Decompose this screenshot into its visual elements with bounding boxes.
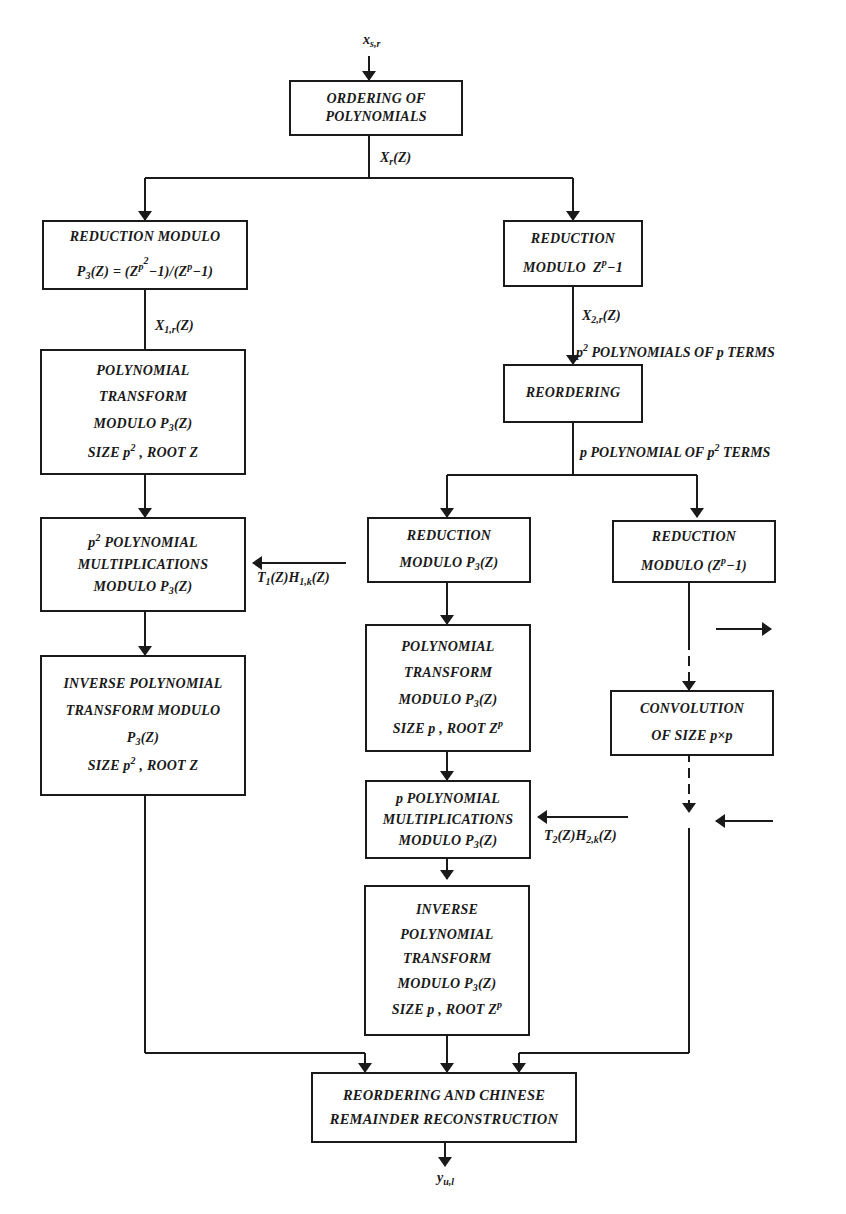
edge-label-t2h2: T2(Z)H2,k(Z)	[544, 828, 617, 845]
box-reduction-modulo-zp-1: REDUCTION MODULO (Zp−1)	[612, 520, 776, 583]
p3-definition: P3(Z) = (Zp2−1)/(Zp−1)	[77, 251, 213, 286]
edge-label-x2r: X2,r(Z)	[582, 308, 621, 325]
box-ordering-of-polynomials: ORDERING OF POLYNOMIALS	[289, 80, 463, 136]
box-p-polynomial-multiplications: p POLYNOMIAL MULTIPLICATIONS MODULO P3(Z…	[365, 780, 531, 859]
edge-label-p2-polys: p2 POLYNOMIALS OF p TERMS	[576, 342, 775, 361]
box-reduction-modulo-p3: REDUCTION MODULO P3(Z) = (Zp2−1)/(Zp−1)	[42, 220, 248, 290]
edge-label-x1r: X1,r(Z)	[155, 318, 194, 335]
box-reordering: REORDERING	[503, 364, 643, 423]
flowchart: xs,r yu,l Xr(Z) X1,r(Z) X2,r(Z) p2 POLYN…	[0, 0, 846, 1214]
box-p2-polynomial-multiplications: p2 POLYNOMIAL MULTIPLICATIONS MODULO P3(…	[40, 517, 246, 612]
input-label: xs,r	[363, 32, 380, 49]
box-polynomial-transform-2: POLYNOMIAL TRANSFORM MODULO P3(Z) SIZE p…	[365, 624, 531, 752]
box-inverse-polynomial-transform-2: INVERSE POLYNOMIAL TRANSFORM MODULO P3(Z…	[364, 885, 530, 1036]
edge-label-t1h1: T1(Z)H1,k(Z)	[257, 570, 330, 587]
edge-label-p-polys: p POLYNOMIAL OF p2 TERMS	[580, 442, 770, 461]
box-reduction-modulo-p3-b: REDUCTION MODULO P3(Z)	[367, 517, 531, 583]
box-convolution: CONVOLUTION OF SIZE p×p	[610, 690, 774, 756]
edge-label-xr: Xr(Z)	[380, 150, 411, 167]
output-label: yu,l	[437, 1170, 454, 1187]
box-reordering-and-crt: REORDERING AND CHINESE REMAINDER RECONST…	[311, 1072, 577, 1143]
box-reduction-modulo-zp: REDUCTION MODULO Zp−1	[503, 220, 643, 287]
box-inverse-polynomial-transform-1: INVERSE POLYNOMIAL TRANSFORM MODULO P3(Z…	[40, 655, 246, 796]
box-polynomial-transform-1: POLYNOMIAL TRANSFORM MODULO P3(Z) SIZE p…	[40, 349, 246, 475]
